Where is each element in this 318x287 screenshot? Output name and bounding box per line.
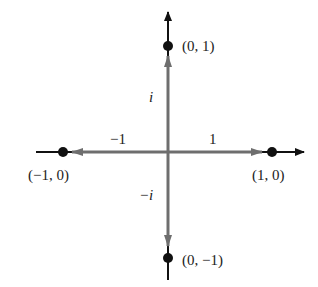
vector-label-i: i <box>149 89 153 105</box>
point-0-1 <box>163 41 173 51</box>
vector-label-1: 1 <box>209 131 217 147</box>
point-label-0-1: (0, 1) <box>182 38 215 55</box>
point-label-1-0: (1, 0) <box>252 167 285 184</box>
point-1-0 <box>267 147 277 157</box>
vector-label-minus-i: −i <box>139 187 153 203</box>
point-label-minus1-0: (−1, 0) <box>28 167 69 184</box>
point-label-0-minus1: (0, −1) <box>182 252 223 269</box>
point-minus1-0 <box>58 147 68 157</box>
vector-label-minus-1: −1 <box>110 131 126 147</box>
point-0-minus1 <box>163 253 173 263</box>
complex-plane-diagram: (0, 1) (1, 0) (−1, 0) (0, −1) i 1 −1 −i <box>0 0 318 287</box>
